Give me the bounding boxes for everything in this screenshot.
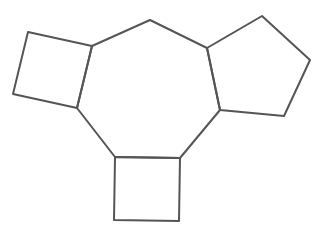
central-heptagon-ring [77, 20, 220, 158]
right-pentagon-ring [207, 16, 310, 116]
bottom-square-ring [114, 157, 180, 221]
left-square-ring [13, 32, 92, 108]
ring-diagram [0, 0, 321, 236]
